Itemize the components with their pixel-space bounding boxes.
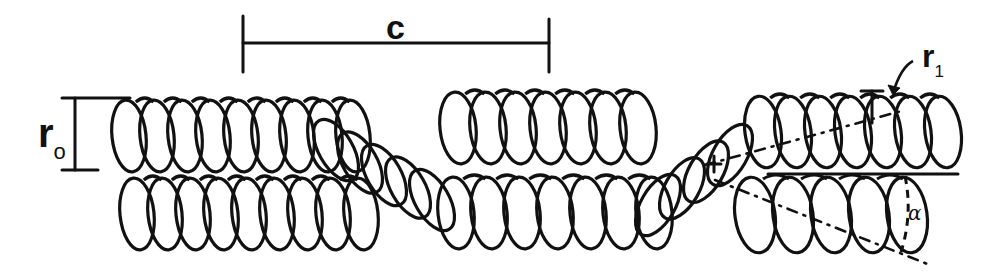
minor-radius-label: r1 <box>922 40 944 80</box>
crossover-loop <box>400 162 463 238</box>
lower-coil-left <box>116 176 381 252</box>
major-radius-base: r <box>38 111 54 155</box>
major-radius-label: ro <box>38 113 66 163</box>
minor-radius-subscript: 1 <box>934 62 943 81</box>
minor-radius-base: r <box>922 38 934 74</box>
pitch-label-text: c <box>386 8 405 46</box>
lower-coil-middle <box>434 175 675 251</box>
upper-coil-right <box>740 94 966 170</box>
pitch-label: c <box>386 10 405 44</box>
angle-label: α <box>908 201 922 225</box>
lower-coil-axis <box>715 180 930 265</box>
coiled-coil-drawing <box>0 0 991 272</box>
crossover-loop <box>376 150 439 226</box>
upper-coil-left <box>108 98 373 174</box>
upper-coil-middle <box>436 90 659 166</box>
lower-coil-right <box>730 175 932 256</box>
coiled-coil-diagram: c ro r1 α <box>0 0 991 272</box>
major-radius-subscript: o <box>54 139 66 164</box>
crossover-loop <box>352 137 415 213</box>
